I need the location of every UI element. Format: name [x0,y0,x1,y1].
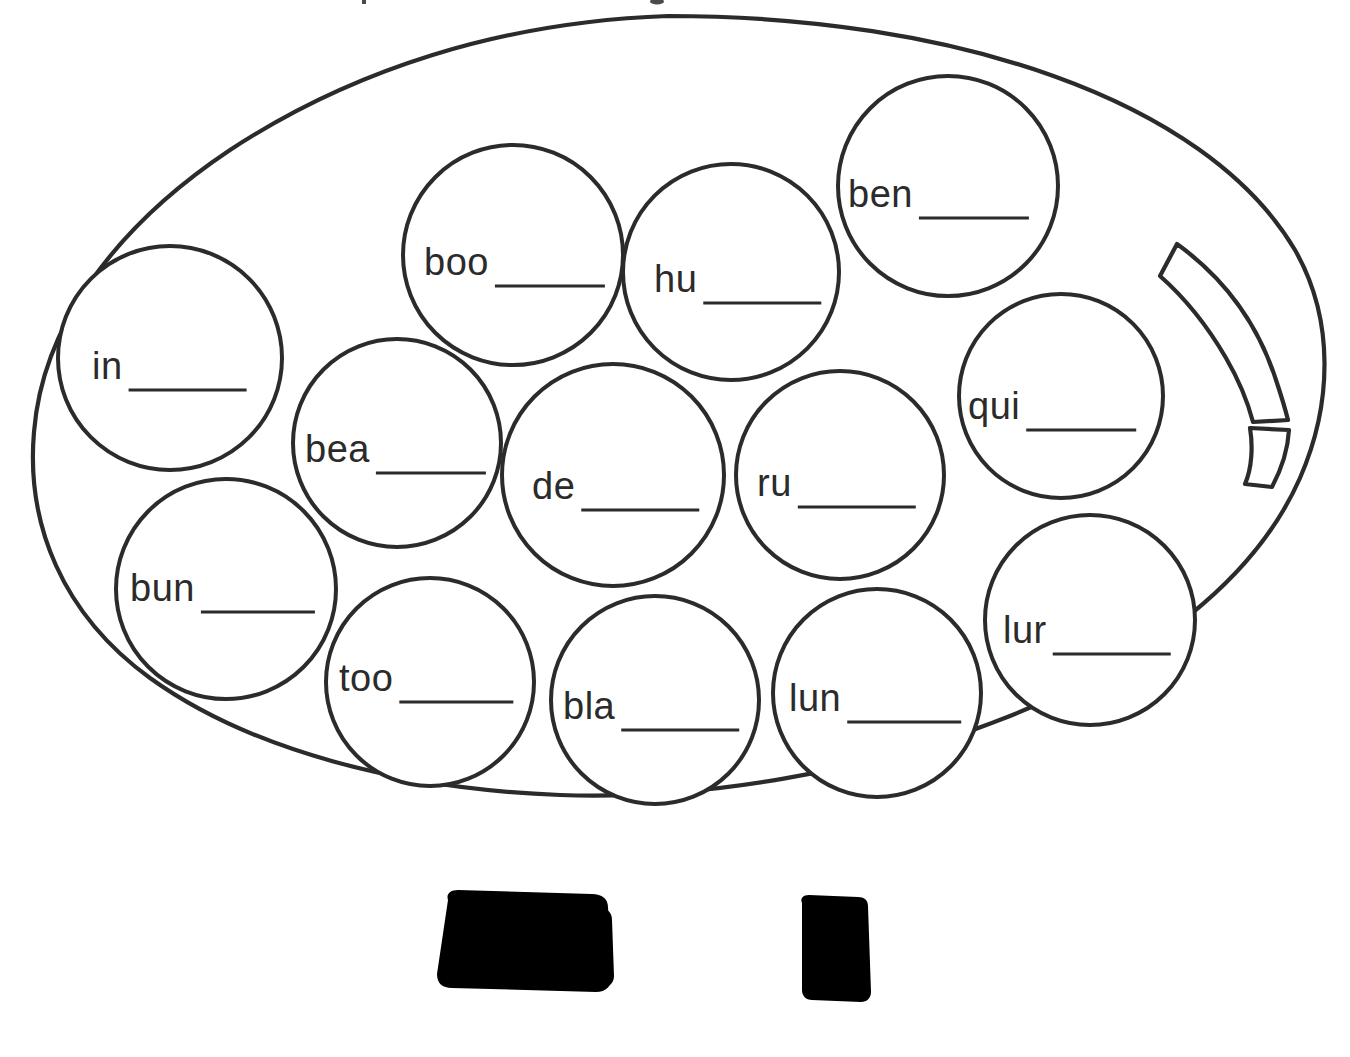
word-prefix-de: de [532,465,575,507]
word-prefix-ben: ben [848,173,913,215]
gumball-lun[interactable]: lun [773,589,981,797]
gumball-ru[interactable]: ru [736,371,944,579]
gumball-qui[interactable]: qui [959,294,1163,498]
gumball-bla[interactable]: bla [551,596,759,804]
gumball-too[interactable]: too [326,578,534,786]
cropped-header-text-fragments [362,0,664,5]
word-prefix-ru: ru [757,462,792,504]
gumball-bun[interactable]: bun [116,479,336,699]
word-prefix-qui: qui [968,385,1020,427]
dispenser-tray-inner [477,903,614,988]
gumball-boo[interactable]: boo [403,145,623,365]
word-prefix-hu: hu [654,258,697,300]
word-prefix-in: in [92,345,123,387]
gumball-machine-illustration: inboohubenbeaderuquibuntooblalunlur [0,0,1350,1057]
globe-arc-slot-lower [1245,428,1289,487]
gumball-layer: inboohubenbeaderuquibuntooblalunlur [58,76,1195,804]
word-prefix-lun: lun [789,677,841,719]
word-prefix-too: too [339,657,393,699]
gumball-de[interactable]: de [502,364,724,586]
gumball-hu[interactable]: hu [623,164,839,380]
word-prefix-bea: bea [305,428,370,470]
screw-head [985,858,1059,932]
word-prefix-lur: lur [1003,609,1047,651]
globe-arc-slot-upper [1160,244,1288,422]
word-prefix-bun: bun [130,567,195,609]
gumball-in[interactable]: in [58,246,282,470]
gumball-bea[interactable]: bea [293,339,501,547]
word-prefix-bla: bla [563,685,616,727]
word-prefix-boo: boo [424,241,489,283]
worksheet-page: inboohubenbeaderuquibuntooblalunlur [0,0,1350,1057]
coin-slot-inner [827,900,864,986]
gumball-ben[interactable]: ben [838,76,1058,296]
gumball-lur[interactable]: lur [985,515,1195,725]
